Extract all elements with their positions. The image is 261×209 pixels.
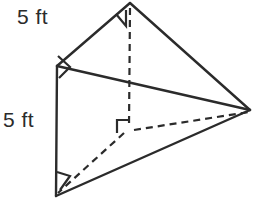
hidden-edge-to-left — [58, 133, 124, 193]
hidden-edges — [58, 8, 249, 193]
left-vertical-edge — [56, 66, 57, 196]
top-right-edge — [130, 3, 250, 110]
hidden-edge-to-right — [134, 112, 249, 130]
left-lower-right-angle-icon — [57, 172, 70, 190]
geometry-figure: 5 ft 5 ft — [0, 0, 261, 209]
right-angle-markers — [57, 10, 129, 190]
bottom-edge — [56, 110, 250, 196]
vertical-altitude — [129, 8, 130, 126]
dimension-label-left-vertical: 5 ft — [3, 108, 34, 132]
dimension-label-top-left: 5 ft — [17, 5, 48, 29]
geometry-drawing — [0, 0, 261, 209]
interior-right-angle-icon — [117, 120, 129, 133]
top-left-edge — [57, 3, 130, 66]
upper-middle-edge — [57, 66, 250, 110]
